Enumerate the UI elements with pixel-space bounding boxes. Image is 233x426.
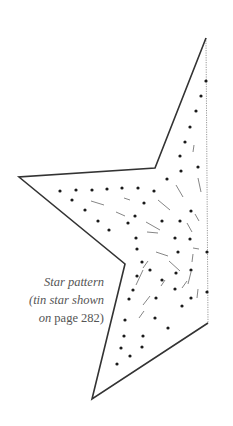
punch-dash	[143, 296, 150, 305]
punch-dot	[128, 354, 131, 357]
punch-dot	[173, 287, 176, 290]
punch-dash	[91, 201, 104, 205]
punch-dash	[197, 289, 198, 298]
punch-dash	[116, 212, 125, 216]
punch-dot	[188, 125, 191, 128]
punch-dash	[188, 272, 191, 284]
punch-dot	[160, 219, 163, 222]
punch-dot	[173, 236, 176, 239]
star-template-drawing	[0, 0, 233, 426]
punch-dot	[123, 318, 126, 321]
caption-line-3: on page 282)	[29, 309, 104, 327]
punch-dot	[189, 296, 192, 299]
punch-dot	[205, 290, 208, 293]
punch-dash	[193, 145, 194, 152]
punch-dash	[195, 214, 199, 221]
punch-dot	[194, 109, 197, 112]
punch-dot	[141, 334, 144, 337]
punch-dot	[166, 326, 169, 329]
caption-line-2: (tin star shown	[29, 291, 104, 309]
punch-dot	[165, 177, 168, 180]
punch-dash	[156, 252, 168, 256]
punch-dash	[192, 254, 193, 262]
punch-dot	[140, 345, 143, 348]
caption-line-1: Star pattern	[29, 273, 104, 291]
punch-dot	[96, 219, 99, 222]
punch-dot	[105, 187, 108, 190]
punch-dot	[122, 334, 125, 337]
punch-dot	[58, 189, 61, 192]
punch-dash	[169, 261, 180, 271]
punch-dot	[178, 154, 181, 157]
punch-dot	[180, 304, 183, 307]
punch-dot	[133, 214, 136, 217]
punch-dot	[153, 316, 156, 319]
punch-dot	[199, 94, 202, 97]
punch-dot	[127, 297, 130, 300]
punch-dot	[90, 188, 93, 191]
punch-dot	[131, 288, 134, 291]
punch-dot	[74, 188, 77, 191]
punch-dot	[120, 186, 123, 189]
caption-line-3-suffix: page 282)	[51, 311, 104, 325]
punch-dot	[204, 79, 207, 82]
punch-dot	[174, 271, 177, 274]
punch-dot	[70, 198, 73, 201]
punch-dash	[147, 232, 158, 233]
punch-dot	[148, 268, 151, 271]
punch-dot	[136, 186, 139, 189]
punch-dot	[205, 250, 208, 253]
punch-dot	[154, 296, 157, 299]
star-pattern-figure: Star pattern (tin star shown on page 282…	[0, 0, 233, 426]
punch-dot	[189, 268, 192, 271]
punch-dot	[135, 274, 138, 277]
punch-dot	[183, 140, 186, 143]
figure-caption: Star pattern (tin star shown on page 282…	[29, 273, 104, 327]
punch-dot	[179, 169, 182, 172]
punch-dot	[119, 346, 122, 349]
punch-dash	[146, 222, 160, 230]
punch-dash	[187, 223, 192, 232]
punch-dot	[126, 221, 129, 224]
punch-dot	[189, 209, 192, 212]
punch-dot	[178, 219, 181, 222]
punch-dot	[115, 362, 118, 365]
punch-dot	[188, 237, 191, 240]
punch-dot	[134, 236, 137, 239]
punch-dash	[193, 248, 199, 249]
punch-dot	[142, 201, 145, 204]
punch-dash	[198, 178, 201, 192]
punch-dot	[160, 278, 163, 281]
punch-dash	[139, 311, 144, 318]
punch-dash	[124, 198, 130, 200]
punch-dot	[83, 208, 86, 211]
punch-dot	[140, 260, 143, 263]
punch-dash	[176, 185, 183, 197]
punch-dot	[107, 228, 110, 231]
punch-dash	[143, 261, 148, 268]
punch-dot	[135, 247, 138, 250]
punch-dot	[176, 250, 179, 253]
punch-dot	[196, 165, 199, 168]
punch-dot	[152, 189, 155, 192]
caption-line-3-prefix: on	[39, 311, 52, 325]
star-outline	[19, 38, 208, 399]
punch-dash	[182, 281, 187, 288]
punch-dash	[158, 200, 170, 210]
